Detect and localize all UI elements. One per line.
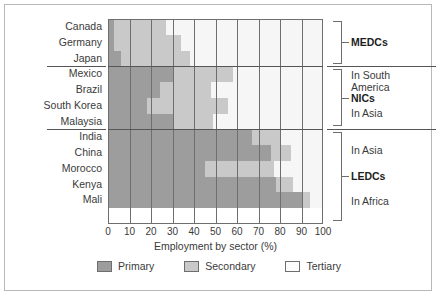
secondary-swatch-icon — [184, 261, 199, 272]
group-divider — [47, 66, 106, 67]
bar-segment-secondary — [160, 82, 212, 98]
group-divider — [108, 66, 323, 67]
x-tick-label: 80 — [274, 226, 285, 237]
medcs-brace — [333, 21, 342, 64]
category-label: Brazil — [19, 82, 106, 98]
ledcs-brace-stem — [342, 176, 349, 177]
gridline — [259, 19, 260, 224]
legend-item-secondary: Secondary — [184, 260, 255, 272]
x-tick-label: 90 — [296, 226, 307, 237]
ledcs-note-africa: In Africa — [351, 195, 389, 207]
gridline — [173, 19, 174, 224]
bar-segment-secondary — [302, 192, 311, 208]
chart-frame: Canada Germany Japan Mexico Brazil South… — [4, 4, 432, 291]
bar-segment-primary — [108, 66, 173, 82]
category-label: Mexico — [19, 66, 106, 82]
category-label: India — [19, 129, 106, 145]
category-label: Kenya — [19, 177, 106, 193]
x-tick-label: 30 — [167, 226, 178, 237]
x-axis-ticks: 0102030405060708090100 — [108, 226, 323, 240]
bar-segment-secondary — [173, 114, 214, 130]
nics-brace — [333, 69, 342, 126]
bar-segment-tertiary — [213, 114, 323, 130]
plot-area — [108, 19, 323, 224]
bar-segment-tertiary — [310, 192, 323, 208]
nics-note-south: In South — [351, 69, 390, 81]
ledcs-label: LEDCs — [351, 170, 385, 182]
bar-segment-secondary — [114, 35, 181, 51]
category-label: Morocco — [19, 161, 106, 177]
group-divider — [47, 129, 106, 130]
bar-segment-secondary — [114, 19, 166, 35]
group-divider — [327, 66, 436, 67]
medcs-brace-stem — [342, 42, 349, 43]
bar-segment-primary — [108, 114, 173, 130]
bar-segment-tertiary — [233, 66, 323, 82]
group-divider — [327, 129, 436, 130]
legend-item-primary: Primary — [97, 260, 154, 272]
bar-segment-secondary — [173, 66, 233, 82]
x-tick-label: 0 — [105, 226, 111, 237]
bar-segment-primary — [108, 145, 271, 161]
bar-segment-secondary — [271, 145, 290, 161]
chart-legend: Primary Secondary Tertiary — [19, 257, 419, 275]
category-label: Mali — [19, 192, 106, 208]
tertiary-swatch-icon — [285, 261, 300, 272]
nics-note-asia: In Asia — [351, 107, 383, 119]
x-tick-label: 20 — [145, 226, 156, 237]
category-label: China — [19, 145, 106, 161]
bar-segment-tertiary — [291, 145, 323, 161]
legend-item-tertiary: Tertiary — [285, 260, 340, 272]
x-tick-label: 60 — [231, 226, 242, 237]
bar-segment-tertiary — [190, 51, 323, 67]
category-label: Canada — [19, 19, 106, 35]
category-label: South Korea — [19, 98, 106, 114]
bar-segment-secondary — [121, 51, 190, 67]
gridline — [237, 19, 238, 224]
nics-brace-stem — [342, 98, 349, 99]
bar-segment-secondary — [252, 129, 280, 145]
x-tick-label: 40 — [188, 226, 199, 237]
x-tick-label: 10 — [124, 226, 135, 237]
x-tick-label: 100 — [315, 226, 332, 237]
gridline — [151, 19, 152, 224]
bar-segment-tertiary — [166, 19, 323, 35]
legend-label: Secondary — [205, 260, 255, 272]
group-annotations: MEDCs In South America NICs In Asia In A… — [327, 19, 432, 224]
category-label: Japan — [19, 51, 106, 67]
nics-label: NICs — [351, 92, 375, 104]
medcs-label: MEDCs — [351, 36, 388, 48]
x-axis-title: Employment by sector (%) — [108, 240, 323, 252]
group-divider — [108, 129, 323, 130]
bar-segment-secondary — [276, 177, 293, 193]
legend-label: Tertiary — [306, 260, 340, 272]
category-label: Germany — [19, 35, 106, 51]
gridline — [130, 19, 131, 224]
x-tick-label: 50 — [210, 226, 221, 237]
bar-segment-primary — [108, 192, 302, 208]
bar-segment-tertiary — [211, 82, 323, 98]
x-tick-label: 70 — [253, 226, 264, 237]
primary-swatch-icon — [97, 261, 112, 272]
category-axis-labels: Canada Germany Japan Mexico Brazil South… — [19, 19, 106, 224]
bar-segment-tertiary — [293, 177, 323, 193]
bar-segment-tertiary — [228, 98, 323, 114]
bar-segment-primary — [108, 98, 147, 114]
ledcs-note-asia: In Asia — [351, 144, 383, 156]
gridline — [302, 19, 303, 224]
bar-segment-primary — [108, 177, 276, 193]
gridline — [216, 19, 217, 224]
ledcs-brace — [333, 132, 342, 221]
bar-segment-primary — [108, 51, 121, 67]
bar-segment-primary — [108, 161, 205, 177]
category-label: Malaysia — [19, 114, 106, 130]
gridline — [194, 19, 195, 224]
gridline — [280, 19, 281, 224]
legend-label: Primary — [118, 260, 154, 272]
